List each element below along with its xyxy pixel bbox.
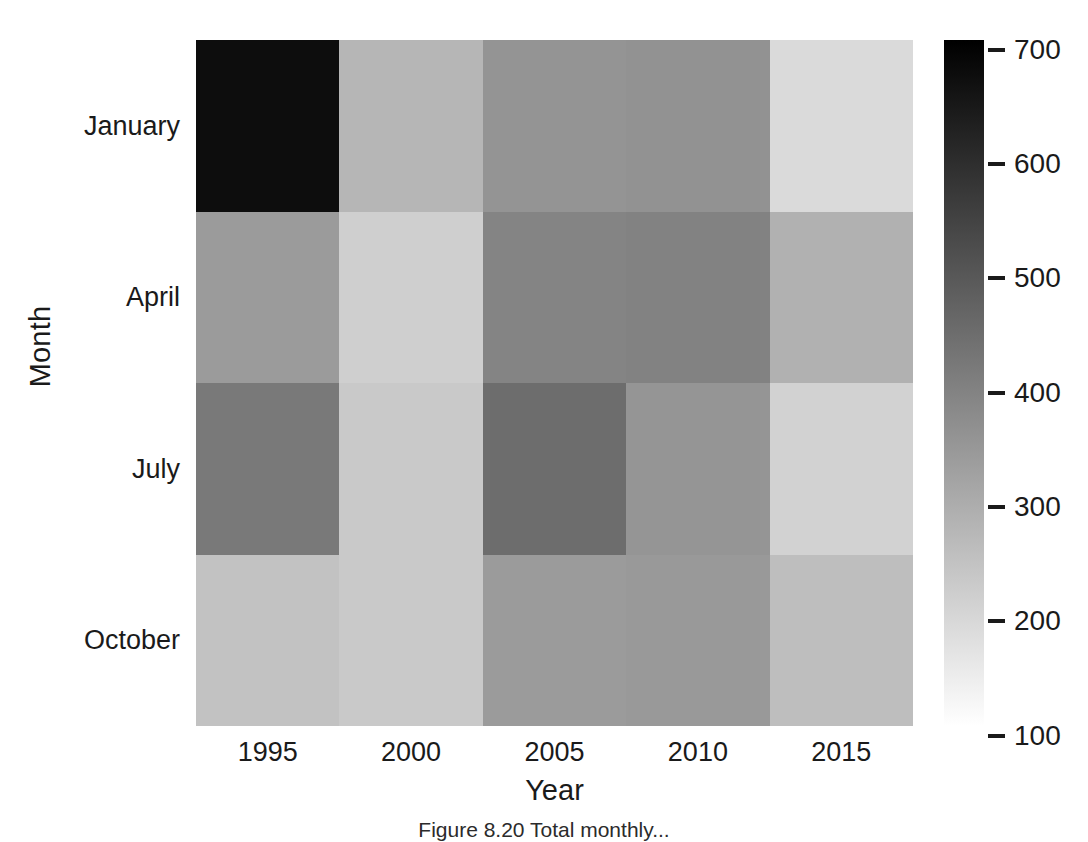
heatmap-cell[interactable] — [196, 555, 339, 727]
heatmap-cell[interactable] — [483, 383, 626, 555]
heatmap-cell[interactable] — [770, 555, 913, 727]
x-tick-label-2005: 2005 — [483, 734, 626, 774]
heatmap-cell[interactable] — [626, 40, 769, 212]
heatmap-cell[interactable] — [770, 383, 913, 555]
colorbar-tick-mark — [988, 162, 1005, 166]
x-axis-tick-labels: 19952000200520102015 — [196, 734, 913, 774]
y-tick-label-january: January — [30, 110, 180, 141]
heatmap-cell[interactable] — [339, 212, 482, 384]
heatmap-cell[interactable] — [626, 555, 769, 727]
heatmap-cell[interactable] — [770, 40, 913, 212]
heatmap-cell[interactable] — [626, 383, 769, 555]
y-axis-tick-labels: JanuaryAprilJulyOctober — [30, 40, 188, 726]
heatmap-cell[interactable] — [196, 212, 339, 384]
colorbar: 700600500400300200100 — [944, 40, 1084, 730]
colorbar-tick-mark — [988, 505, 1005, 509]
y-tick-label-april: April — [30, 282, 180, 313]
heatmap-cell[interactable] — [483, 555, 626, 727]
x-tick-label-2015: 2015 — [770, 734, 913, 774]
colorbar-tick-mark — [988, 276, 1005, 280]
x-axis-title: Year — [196, 774, 913, 807]
figure-caption: Figure 8.20 Total monthly... — [0, 818, 1088, 842]
heatmap-cell[interactable] — [483, 212, 626, 384]
heatmap-cell[interactable] — [196, 383, 339, 555]
x-tick-label-2000: 2000 — [339, 734, 482, 774]
heatmap-cell[interactable] — [626, 212, 769, 384]
x-tick-label-2010: 2010 — [626, 734, 769, 774]
heatmap-cell[interactable] — [339, 40, 482, 212]
colorbar-tick-mark — [988, 619, 1005, 623]
heatmap-cell[interactable] — [339, 555, 482, 727]
heatmap-cell[interactable] — [196, 40, 339, 212]
colorbar-tick-mark — [988, 734, 1005, 738]
colorbar-gradient — [944, 40, 984, 726]
colorbar-tick-mark — [988, 391, 1005, 395]
y-tick-label-july: July — [30, 453, 180, 484]
x-tick-label-1995: 1995 — [196, 734, 339, 774]
y-tick-label-october: October — [30, 625, 180, 656]
heatmap-plot-area — [196, 40, 913, 726]
heatmap-cell[interactable] — [339, 383, 482, 555]
heatmap-cell[interactable] — [483, 40, 626, 212]
colorbar-tick-mark — [988, 48, 1005, 52]
heatmap-cell[interactable] — [770, 212, 913, 384]
